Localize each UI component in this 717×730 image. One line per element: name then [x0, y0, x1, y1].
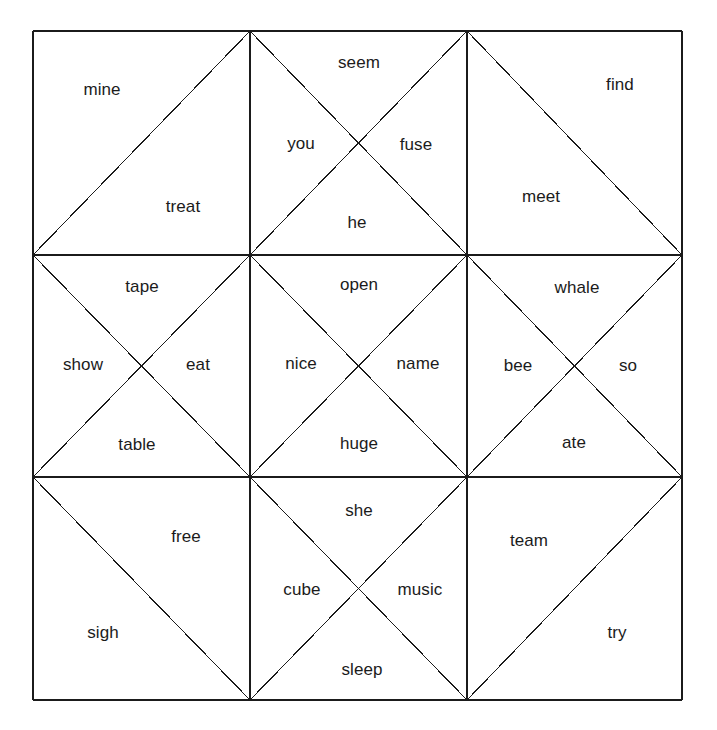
word-team: team	[510, 532, 548, 549]
cell-top-left-main-diagonal	[33, 31, 250, 255]
word-seem: seem	[338, 54, 380, 71]
word-music: music	[398, 581, 443, 598]
word-eat: eat	[186, 356, 210, 373]
word-free: free	[171, 528, 201, 545]
word-so: so	[619, 357, 637, 374]
word-sleep: sleep	[341, 661, 382, 678]
word-huge: huge	[340, 435, 378, 452]
word-sigh: sigh	[87, 624, 119, 641]
word-fuse: fuse	[400, 136, 433, 153]
word-open: open	[340, 276, 378, 293]
word-show: show	[63, 356, 103, 373]
cell-top-right-anti-diagonal	[467, 31, 682, 255]
word-you: you	[287, 135, 315, 152]
word-tape: tape	[125, 278, 159, 295]
word-nice: nice	[285, 355, 317, 372]
word-find: find	[606, 76, 634, 93]
word-sort-quilt: minetreatseemyoufusehefindmeettapeshowea…	[0, 0, 717, 730]
quilt-grid-svg	[0, 0, 717, 730]
word-bee: bee	[504, 357, 533, 374]
word-treat: treat	[166, 198, 201, 215]
word-whale: whale	[555, 279, 600, 296]
word-she: she	[345, 502, 373, 519]
word-ate: ate	[562, 434, 586, 451]
cell-bottom-right-main-diagonal	[467, 477, 682, 700]
word-cube: cube	[283, 581, 320, 598]
cell-bottom-left-anti-diagonal	[33, 477, 250, 700]
word-name: name	[397, 355, 440, 372]
word-meet: meet	[522, 188, 560, 205]
word-try: try	[607, 624, 626, 641]
word-mine: mine	[83, 81, 120, 98]
word-he: he	[347, 214, 366, 231]
word-table: table	[118, 436, 155, 453]
